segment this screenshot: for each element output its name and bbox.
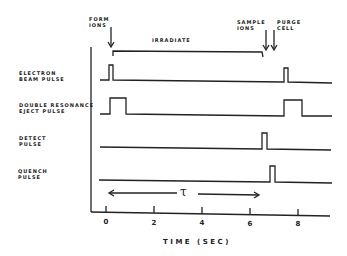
- channel-label-electron-beam: ELECTRON BEAM PULSE: [19, 70, 65, 82]
- tau-right-arrow-icon: [198, 192, 259, 198]
- form-ions-arrow-icon: [108, 27, 114, 47]
- detect-pulse-trace: [100, 133, 331, 150]
- tick-label-6: 6: [248, 220, 253, 228]
- form-ions-label: FORM IONS: [89, 16, 110, 28]
- x-axis-line: [91, 212, 330, 216]
- tau-symbol: τ: [180, 185, 187, 199]
- tick-label-0: 0: [104, 218, 109, 226]
- channel-label-quench: QUENCH PULSE: [18, 168, 48, 180]
- sample-ions-label: SAMPLE IONS: [237, 19, 266, 31]
- electron-beam-pulse-trace: [100, 65, 332, 83]
- channel-label-double-resonance: DOUBLE RESONANCE EJECT PULSE: [19, 102, 94, 114]
- tau-left-arrow-icon: [109, 190, 177, 196]
- quench-pulse-trace: [99, 166, 332, 183]
- channel-label-detect: DETECT PULSE: [19, 135, 46, 147]
- tick-label-8: 8: [296, 220, 301, 228]
- x-axis-title: TIME (SEC): [163, 238, 231, 246]
- double-resonance-eject-pulse-trace: [100, 98, 332, 116]
- purge-cell-arrow-icon: [271, 30, 277, 50]
- purge-cell-label: PURGE CELL: [277, 19, 301, 31]
- irradiate-label: IRRADIATE: [152, 37, 191, 43]
- tick-label-2: 2: [152, 219, 157, 227]
- irradiate-bracket: [113, 51, 263, 57]
- tick-label-4: 4: [200, 219, 205, 227]
- sample-ions-arrow-icon: [263, 30, 269, 50]
